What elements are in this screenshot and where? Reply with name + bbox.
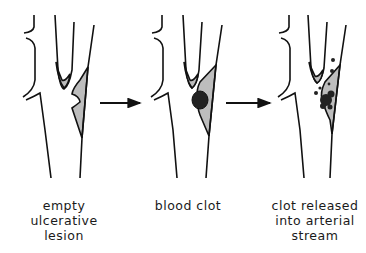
stage-blood-clot-artery — [151, 15, 222, 178]
blood-clot — [192, 91, 208, 109]
label-line: blood clot — [146, 198, 230, 213]
label-clot-released: clot released into arterial stream — [263, 198, 366, 243]
label-blood-clot: blood clot — [146, 198, 230, 213]
label-line: ulcerative — [22, 213, 106, 228]
stage-clot-released-artery — [278, 15, 346, 178]
stage-empty-lesion-artery — [23, 15, 94, 178]
label-line: empty — [22, 198, 106, 213]
label-empty-ulcerative-lesion: empty ulcerative lesion — [22, 198, 106, 243]
label-line: lesion — [22, 228, 106, 243]
label-line: into arterial — [263, 213, 366, 228]
label-line: stream — [263, 228, 366, 243]
label-line: clot released — [263, 198, 366, 213]
